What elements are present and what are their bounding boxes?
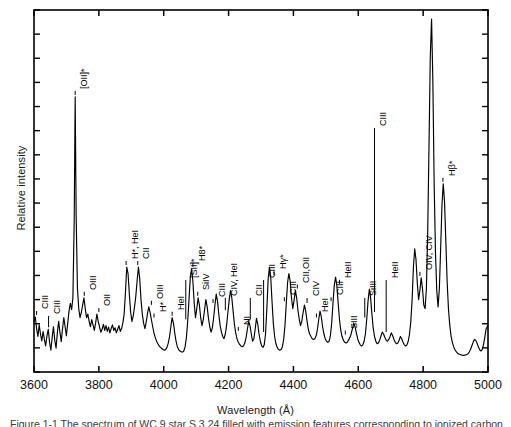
peak-label: H*, HeI [130,230,140,259]
x-tick-label: 4600 [344,378,372,392]
peak-label: CIII [217,283,227,297]
peak-label: Hβ* [447,161,457,176]
peak-label: OIII [155,284,165,298]
plot-frame [34,10,488,372]
x-tick-label: 4200 [215,378,243,392]
peak-label: CIII [52,300,62,314]
peak-label: H* [158,301,168,311]
peak-label: SiIV [201,273,211,289]
x-tick-label: 4000 [150,378,178,392]
peak-label: HeII [390,262,400,278]
peak-label: OIII [88,275,98,289]
peak-label: HeII [343,261,353,277]
peak-label: [SII]* [189,259,199,278]
peak-label: CIII [288,281,298,295]
x-tick-label: 3600 [20,378,48,392]
peak-label: SIII [349,315,359,328]
peak-label: CIII [335,281,345,295]
peak-label: H8* [197,246,207,261]
peak-label: CII [141,248,151,259]
peak-label: CIII [267,264,277,278]
axis-ticks [34,10,488,372]
peak-label: CII,OII [301,257,311,283]
peak-label: CIII [40,295,50,309]
x-tick-label: 3800 [85,378,113,392]
peak-label: NI [242,316,252,325]
peak-label: HeI [320,298,330,312]
x-tick-label: 4400 [280,378,308,392]
spectrum-plot [0,0,511,427]
peak-label: OIV, CIV [424,235,434,270]
y-axis-title: Relative intensity [15,123,27,253]
peak-label: HeI [176,296,186,310]
peak-label: Hγ* [278,255,288,270]
peak-label: CIII [378,112,388,126]
peak-label: SiIII [368,281,378,296]
spectrum-figure: 36003800400042004400460048005000 CIIICII… [0,0,511,427]
x-tick-label: 5000 [474,378,502,392]
x-axis-title: Wavelength (Å) [0,404,511,416]
peak-leader-lines [37,91,443,335]
figure-caption: Figure 1-1 The spectrum of WC 9 star S 3… [10,418,505,427]
peak-label: [OII]* [79,69,89,89]
peak-label: CII [254,285,264,296]
peak-label: CIV [311,281,321,296]
x-tick-label: 4800 [409,378,437,392]
peak-label: OII [102,294,112,306]
peak-label: CIV, HeI [229,263,239,296]
